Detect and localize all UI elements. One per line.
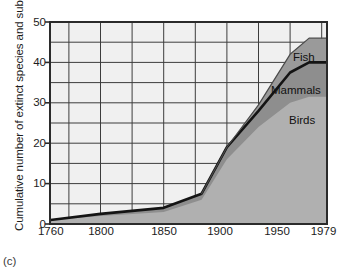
figure-container: Cumulative number of extinct species and…	[0, 0, 349, 268]
x-tick-label-1950: 1950	[264, 226, 290, 238]
series-label-birds: Birds	[289, 115, 315, 127]
figure-caption: (c)	[3, 256, 16, 268]
x-tick-label-1850: 1850	[151, 226, 177, 238]
series-label-mammals: Mammals	[271, 85, 321, 97]
x-tick-label-1760: 1760	[38, 226, 64, 238]
x-tick-label-1900: 1900	[207, 226, 233, 238]
series-label-fish: Fish	[293, 52, 315, 64]
x-axis-tick-labels: 1760 1800 1850 1900 1950 1979	[0, 226, 349, 244]
x-tick-label-1800: 1800	[88, 226, 114, 238]
x-tick-label-1979: 1979	[311, 226, 337, 238]
